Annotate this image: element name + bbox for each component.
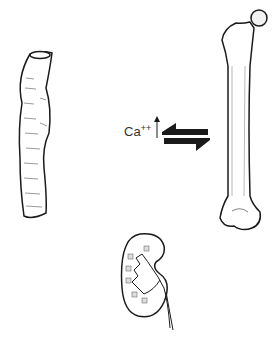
- calcium-ion-label: Ca++: [124, 123, 151, 139]
- ion-charge: ++: [141, 123, 152, 133]
- exchange-arrow-icon: [160, 122, 212, 152]
- femur-bone-illustration: [212, 6, 272, 236]
- ion-symbol: Ca: [124, 124, 141, 139]
- kidney-illustration: [120, 232, 182, 332]
- intestine-illustration: [12, 48, 56, 228]
